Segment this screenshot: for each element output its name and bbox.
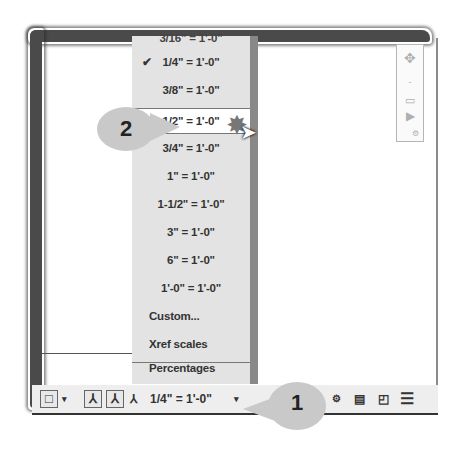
menu-item-1-4[interactable]: ✔ 1/4" = 1'-0" [132,50,250,74]
menu-item-6[interactable]: 6" = 1'-0" [132,248,250,272]
showmotion-icon[interactable]: ▶ [397,109,423,123]
menu-item-3[interactable]: 3" = 1'-0" [132,220,250,244]
menu-item-percentages[interactable]: Percentages [132,356,250,380]
checkmark-icon: ✔ [142,50,152,74]
annotation-visibility-icon[interactable]: ⅄ [84,390,102,408]
viewport-dropdown-icon[interactable]: ▾ [62,390,67,408]
callout-2: 2 [97,107,155,151]
callout-1: 1 [268,382,326,430]
menu-item-xref-scales[interactable]: Xref scales [132,332,250,356]
nav-divider-icon: - [397,75,423,89]
menu-item-partial[interactable]: 3/16" = 1'-0" [132,26,250,50]
menu-item-custom[interactable]: Custom... [132,304,250,328]
viewport-icon[interactable]: □ [40,390,58,408]
fullscreen-icon[interactable]: ◰ [378,390,389,408]
status-bar: □ ▾ ⅄ ⅄ ⅄ 1/4" = 1'-0" ▾ ⚙ ▤ ◰ ☰ [32,385,438,415]
isolate-icon[interactable]: ▤ [354,390,365,408]
annotation-scale-icon[interactable]: ⅄ [130,390,137,408]
nav-settings-icon[interactable]: ⚙ [397,127,419,141]
workspace-icon[interactable]: ⚙ [332,390,341,408]
mouse-cursor-icon: ➤ [240,120,257,144]
auto-scale-icon[interactable]: ⅄ [106,390,124,408]
menu-item-1-0[interactable]: 1'-0" = 1'-0" [132,276,250,300]
zoom-extents-icon[interactable]: ▭ [397,93,423,107]
navigation-bar[interactable]: ✥ - ▭ ▶ ⚙ [396,44,424,142]
menu-item-3-8[interactable]: 3/8" = 1'-0" [132,78,250,102]
menu-item-1[interactable]: 1" = 1'-0" [132,164,250,188]
annotation-scale-value[interactable]: 1/4" = 1'-0" [150,390,212,408]
menu-scrollbar[interactable] [250,36,258,384]
canvas-line [42,353,132,354]
menu-item-1-1-2[interactable]: 1-1/2" = 1'-0" [132,192,250,216]
torn-edge-left [30,30,42,408]
window-border-right [436,38,438,410]
customize-menu-icon[interactable]: ☰ [400,390,414,408]
scale-dropdown-icon[interactable]: ▾ [234,390,239,408]
annotation-scale-menu[interactable]: 3/16" = 1'-0" ✔ 1/4" = 1'-0" 3/8" = 1'-0… [132,36,250,384]
pan-icon[interactable]: ✥ [397,51,423,65]
